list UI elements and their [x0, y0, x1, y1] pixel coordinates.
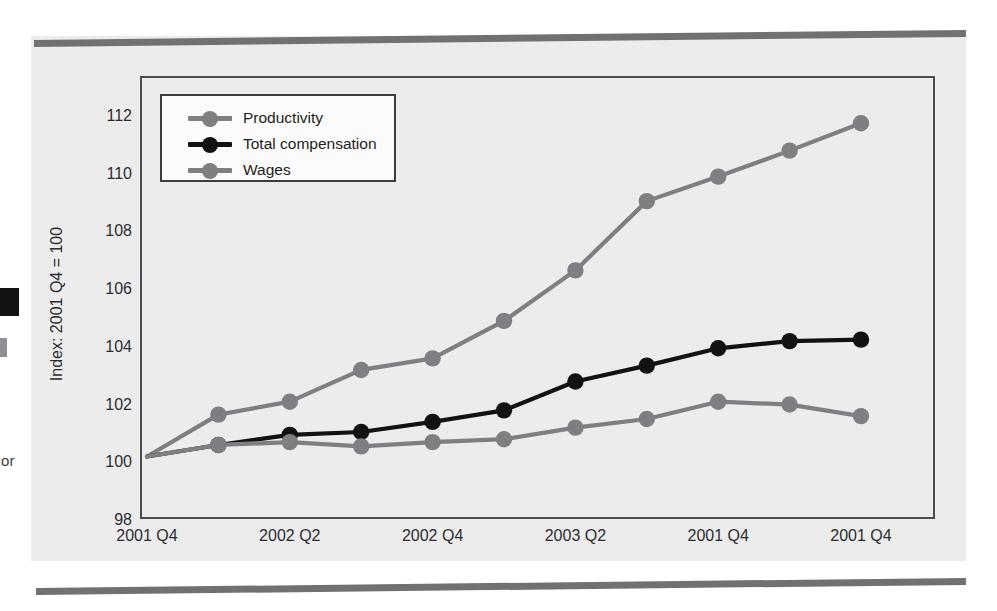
data-point-marker	[639, 357, 655, 373]
x-tick-label: 2001 Q4	[830, 527, 891, 545]
data-point-marker	[639, 411, 655, 427]
y-tick-label: 102	[92, 397, 132, 413]
y-tick-label: 108	[92, 223, 132, 239]
y-axis-ticks: 11211010810610410210098	[88, 0, 132, 611]
legend-swatch-icon	[188, 111, 232, 125]
data-point-marker	[710, 340, 726, 356]
data-point-marker	[210, 437, 226, 453]
legend-swatch-icon	[188, 163, 232, 177]
data-point-marker	[496, 313, 512, 329]
margin-artifact-tick	[0, 338, 7, 357]
y-axis-title: Index: 2001 Q4 = 100	[48, 189, 66, 419]
data-point-marker	[282, 393, 298, 409]
data-point-marker	[496, 402, 512, 418]
legend-label: Wages	[243, 162, 291, 178]
x-tick-label: 2002 Q4	[402, 527, 463, 545]
data-point-marker	[710, 393, 726, 409]
margin-artifact-block	[0, 288, 19, 316]
series-wages	[147, 393, 869, 456]
legend-item[interactable]: Total compensation	[162, 131, 394, 157]
chart-legend: ProductivityTotal compensationWages	[160, 94, 396, 182]
data-point-marker	[639, 193, 655, 209]
data-point-marker	[781, 396, 797, 412]
data-point-marker	[710, 168, 726, 184]
data-point-marker	[567, 373, 583, 389]
x-axis-ticks: 2001 Q42002 Q22002 Q42003 Q22001 Q42001 …	[140, 527, 935, 557]
x-tick-label: 2002 Q2	[259, 527, 320, 545]
data-point-marker	[781, 333, 797, 349]
data-point-marker	[424, 414, 440, 430]
data-point-marker	[424, 350, 440, 366]
margin-artifact-text: or	[1, 452, 15, 469]
bottom-rule	[36, 578, 966, 595]
data-point-marker	[282, 434, 298, 450]
data-point-marker	[496, 431, 512, 447]
y-tick-label: 104	[92, 339, 132, 355]
legend-item[interactable]: Productivity	[162, 105, 394, 131]
data-point-marker	[853, 408, 869, 424]
y-tick-label: 106	[92, 281, 132, 297]
legend-label: Productivity	[243, 110, 323, 126]
legend-swatch-icon	[188, 137, 232, 151]
data-point-marker	[424, 434, 440, 450]
legend-label: Total compensation	[243, 136, 377, 152]
y-tick-label: 110	[92, 166, 132, 182]
data-point-marker	[353, 424, 369, 440]
x-tick-label: 2001 Q4	[687, 527, 748, 545]
data-point-marker	[567, 262, 583, 278]
y-tick-label: 100	[92, 454, 132, 470]
data-point-marker	[567, 419, 583, 435]
legend-item[interactable]: Wages	[162, 157, 394, 183]
data-point-marker	[853, 115, 869, 131]
data-point-marker	[781, 142, 797, 158]
data-point-marker	[353, 438, 369, 454]
scanned-page: or Index: 2001 Q4 = 100 1121101081061041…	[0, 0, 997, 611]
y-tick-label: 98	[92, 512, 132, 528]
data-point-marker	[853, 331, 869, 347]
x-tick-label: 2003 Q2	[545, 527, 606, 545]
x-tick-label: 2001 Q4	[116, 527, 177, 545]
data-point-marker	[353, 362, 369, 378]
y-tick-label: 112	[92, 108, 132, 124]
data-point-marker	[210, 406, 226, 422]
